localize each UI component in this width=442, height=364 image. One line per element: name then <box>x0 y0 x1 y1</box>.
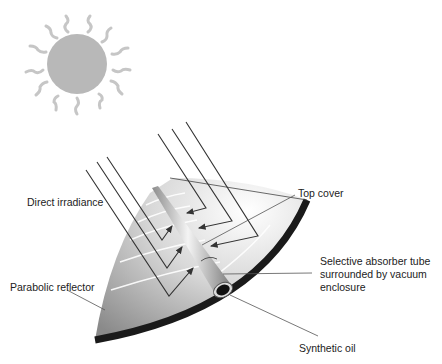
sun-icon <box>26 16 130 114</box>
label-top-cover: Top cover <box>298 187 344 200</box>
label-absorber-line1: Selective absorber tube <box>320 255 430 268</box>
label-parabolic-reflector: Parabolic reflector <box>10 281 95 294</box>
label-synthetic-oil: Synthetic oil <box>299 342 356 355</box>
label-direct-irradiance: Direct irradiance <box>27 196 103 209</box>
label-absorber-line2: surrounded by vacuum <box>320 268 427 281</box>
diagram-canvas <box>0 0 442 364</box>
label-absorber-line3: enclosure <box>320 281 366 294</box>
